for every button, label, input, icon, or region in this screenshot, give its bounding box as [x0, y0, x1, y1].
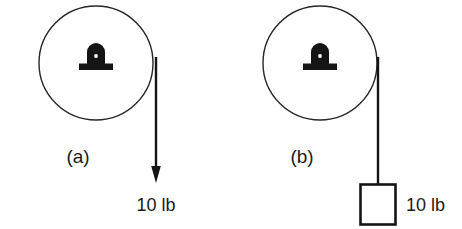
pulley-force-diagram: (a) 10 lb (b) 10 lb — [0, 0, 462, 229]
panel-a: (a) 10 lb — [39, 6, 176, 215]
force-value-a: 10 lb — [136, 195, 175, 215]
panel-label-a: (a) — [66, 146, 89, 167]
pulley-axle-mount-icon-a — [79, 43, 113, 70]
pulley-axle-mount-icon-b — [303, 43, 337, 70]
panel-label-b: (b) — [290, 146, 313, 167]
diagram-canvas: (a) 10 lb (b) 10 lb — [0, 0, 462, 229]
panel-b: (b) 10 lb — [263, 6, 445, 225]
force-arrowhead-a — [151, 166, 161, 183]
force-value-b: 10 lb — [406, 195, 445, 215]
hanging-weight-box — [361, 185, 396, 225]
